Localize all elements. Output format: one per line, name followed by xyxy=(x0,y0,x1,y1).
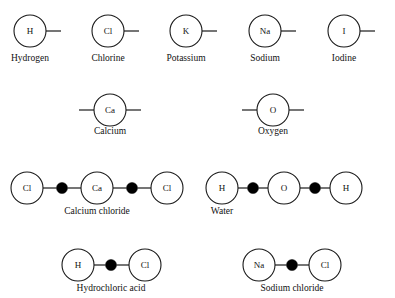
molecule-atom-symbol: H xyxy=(219,183,226,193)
molecule-name-label: Calcium chloride xyxy=(64,206,130,216)
molecule-water[interactable]: HOHWater xyxy=(206,172,362,216)
molecule-calcium-chloride[interactable]: ClCaClCalcium chloride xyxy=(11,172,183,216)
molecule-atom-symbol: Na xyxy=(254,260,265,270)
atom-name-label: Sodium xyxy=(250,53,280,63)
atom-hydrogen[interactable]: HHydrogen xyxy=(11,15,61,63)
atom-name-label: Chlorine xyxy=(91,53,124,63)
shared-electron-pair-dot xyxy=(287,260,298,271)
molecule-name-label: Sodium chloride xyxy=(260,283,323,293)
atom-symbol: Ca xyxy=(105,105,115,115)
shared-electron-pair-dot xyxy=(310,183,321,194)
atom-name-label: Hydrogen xyxy=(11,53,49,63)
diagram-canvas: HHydrogenClChlorineKPotassiumNaSodiumIIo… xyxy=(0,0,395,298)
atom-sodium[interactable]: NaSodium xyxy=(249,15,296,63)
molecule-name-label: Hydrochloric acid xyxy=(77,283,146,293)
molecule-atom-symbol: Cl xyxy=(23,183,32,193)
molecule-atom-symbol: Cl xyxy=(321,260,330,270)
shared-electron-pair-dot xyxy=(106,260,117,271)
molecule-atom-symbol: Cl xyxy=(141,260,150,270)
atom-symbol: H xyxy=(27,26,34,36)
atom-name-label: Iodine xyxy=(332,53,356,63)
molecule-atom-symbol: H xyxy=(75,260,82,270)
molecule-atom-symbol: H xyxy=(343,183,350,193)
atom-calcium[interactable]: CaCalcium xyxy=(79,94,141,136)
molecule-atom-symbol: Cl xyxy=(163,183,172,193)
atom-symbol: I xyxy=(343,26,346,36)
atom-chlorine[interactable]: ClChlorine xyxy=(91,15,139,63)
atom-name-label: Calcium xyxy=(94,126,127,136)
atom-symbol: O xyxy=(270,105,277,115)
atom-row-monovalent-atoms: HHydrogenClChlorineKPotassiumNaSodiumIIo… xyxy=(11,15,375,63)
atom-name-label: Oxygen xyxy=(258,126,288,136)
molecule-sodium-chloride[interactable]: NaClSodium chloride xyxy=(243,249,341,293)
atom-symbol: Cl xyxy=(104,26,113,36)
atom-symbol: K xyxy=(183,26,190,36)
molecule-atom-symbol: O xyxy=(281,183,288,193)
atom-name-label: Potassium xyxy=(166,53,206,63)
atom-iodine[interactable]: IIodine xyxy=(328,15,375,63)
molecules-layer: ClCaClCalcium chlorideHOHWaterHClHydroch… xyxy=(11,172,362,293)
molecule-hydrochloric-acid[interactable]: HClHydrochloric acid xyxy=(62,249,161,293)
atoms-layer: HHydrogenClChlorineKPotassiumNaSodiumIIo… xyxy=(11,15,375,136)
atom-oxygen[interactable]: OOxygen xyxy=(242,94,304,136)
chemistry-diagram: HHydrogenClChlorineKPotassiumNaSodiumIIo… xyxy=(0,0,395,298)
shared-electron-pair-dot xyxy=(248,183,259,194)
atom-potassium[interactable]: KPotassium xyxy=(166,15,217,63)
atom-symbol: Na xyxy=(260,26,271,36)
atom-row-divalent-atoms: CaCalciumOOxygen xyxy=(79,94,304,136)
molecule-name-label: Water xyxy=(211,206,234,216)
molecule-atom-symbol: Ca xyxy=(92,183,102,193)
shared-electron-pair-dot xyxy=(57,183,68,194)
shared-electron-pair-dot xyxy=(127,183,138,194)
